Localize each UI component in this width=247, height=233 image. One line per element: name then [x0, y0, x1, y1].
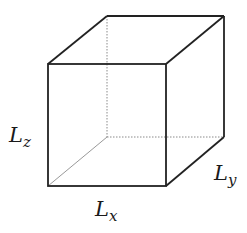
visible-edges: [48, 16, 224, 186]
hidden-diagonal-edge: [48, 137, 107, 186]
label-ly: Ly: [213, 161, 237, 189]
top-left-edge: [48, 16, 107, 64]
cube-diagram: Lz Ly Lx: [0, 0, 247, 233]
top-right-edge: [166, 16, 224, 64]
label-lz: Lz: [8, 123, 31, 151]
label-lx: Lx: [94, 197, 118, 225]
